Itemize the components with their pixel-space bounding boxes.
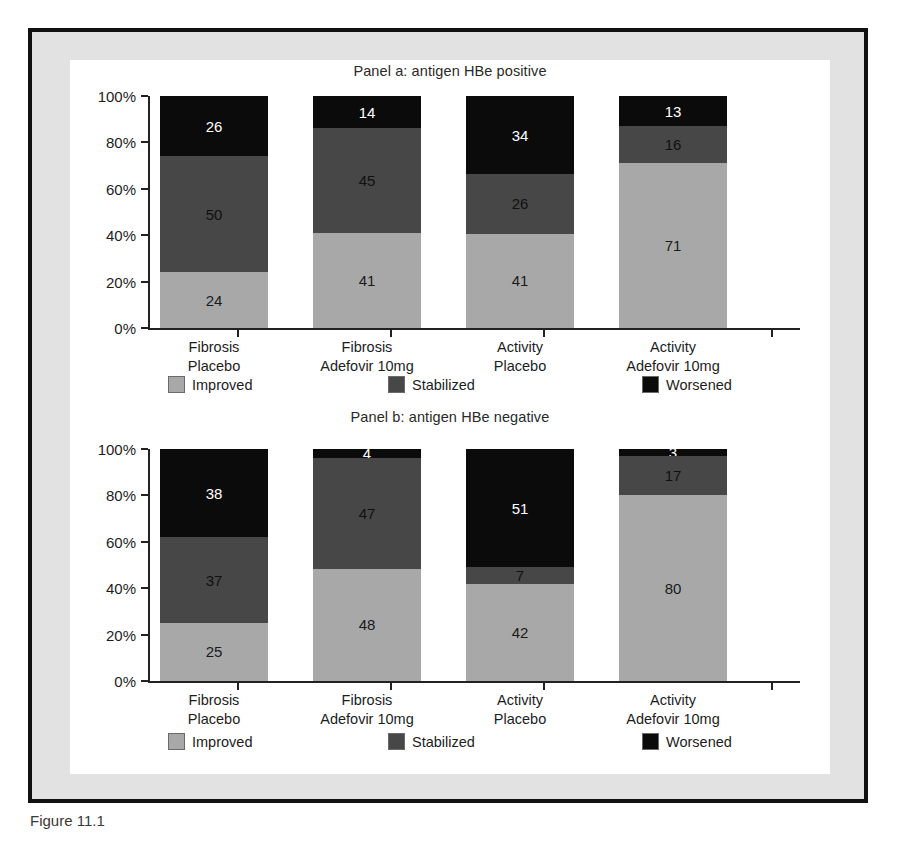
stacked-bar[interactable]: 44748 xyxy=(313,449,421,681)
bar-segment-value: 26 xyxy=(206,119,223,134)
bar-segment-value: 51 xyxy=(512,501,529,516)
legend-item-improved: Improved xyxy=(168,376,252,393)
x-axis-tick xyxy=(390,328,392,337)
category-label-line2: Adefovir 10mg xyxy=(583,357,763,376)
bar-segment-value: 16 xyxy=(665,137,682,152)
y-axis-tick xyxy=(141,327,148,329)
bar-segment-improved[interactable]: 24 xyxy=(160,272,268,328)
x-axis-tick xyxy=(237,328,239,337)
y-axis-label: 80% xyxy=(70,134,136,151)
panel-b: Panel b: antigen HBe negative 100%80%60%… xyxy=(70,405,830,774)
stacked-bar[interactable]: 31780 xyxy=(619,449,727,681)
bar-segment-stabilized[interactable]: 37 xyxy=(160,537,268,623)
bar-segment-value: 41 xyxy=(359,273,376,288)
x-axis-tick xyxy=(771,681,773,690)
bar-segment-value: 25 xyxy=(206,644,223,659)
bar-segment-worsened[interactable]: 4 xyxy=(313,449,421,458)
bar-segment-stabilized[interactable]: 7 xyxy=(466,567,574,583)
bar-segment-stabilized[interactable]: 45 xyxy=(313,128,421,232)
bar-segment-worsened[interactable]: 3 xyxy=(619,449,727,456)
bar-segment-improved[interactable]: 41 xyxy=(466,234,574,328)
category-label-line1: Fibrosis xyxy=(189,339,240,355)
bar-segment-worsened[interactable]: 51 xyxy=(466,449,574,567)
bar-segment-stabilized[interactable]: 50 xyxy=(160,156,268,272)
stacked-bar[interactable]: 51742 xyxy=(466,449,574,681)
stacked-bar[interactable]: 131671 xyxy=(619,96,727,328)
y-axis-tick xyxy=(141,634,148,636)
x-axis-tick xyxy=(237,681,239,690)
legend-label-improved: Improved xyxy=(192,377,252,393)
stacked-bar[interactable]: 383725 xyxy=(160,449,268,681)
bar-segment-worsened[interactable]: 38 xyxy=(160,449,268,537)
category-label-line1: Activity xyxy=(650,692,696,708)
bar-segment-value: 41 xyxy=(512,273,529,288)
stacked-bar[interactable]: 144541 xyxy=(313,96,421,328)
y-axis-tick xyxy=(141,541,148,543)
y-axis-label: 60% xyxy=(70,180,136,197)
category-label-line1: Activity xyxy=(650,339,696,355)
legend-label-stabilized: Stabilized xyxy=(412,377,475,393)
bar-segment-improved[interactable]: 71 xyxy=(619,163,727,328)
category-label-line2: Adefovir 10mg xyxy=(583,710,763,729)
category-label-line1: Activity xyxy=(497,339,543,355)
x-axis-tick xyxy=(390,681,392,690)
panel-a: Panel a: antigen HBe positive 100%80%60%… xyxy=(70,60,830,405)
improved-swatch-icon xyxy=(168,376,185,393)
x-axis-line xyxy=(148,681,800,683)
y-axis-tick xyxy=(141,680,148,682)
y-axis-line xyxy=(148,449,150,683)
bar-segment-improved[interactable]: 41 xyxy=(313,233,421,328)
y-axis-line xyxy=(148,96,150,330)
bar-segment-stabilized[interactable]: 47 xyxy=(313,458,421,568)
legend-label-stabilized: Stabilized xyxy=(412,734,475,750)
stacked-bar[interactable]: 265024 xyxy=(160,96,268,328)
legend-item-stabilized: Stabilized xyxy=(388,376,475,393)
figure-caption: Figure 11.1 xyxy=(30,812,430,846)
y-axis-tick xyxy=(141,448,148,450)
x-axis-line xyxy=(148,328,800,330)
stabilized-swatch-icon xyxy=(388,733,405,750)
y-axis-label: 100% xyxy=(70,441,136,458)
bar-segment-stabilized[interactable]: 16 xyxy=(619,126,727,163)
y-axis-label: 0% xyxy=(70,673,136,690)
bar-segment-value: 47 xyxy=(359,506,376,521)
y-axis-label: 40% xyxy=(70,227,136,244)
y-axis-tick xyxy=(141,95,148,97)
stacked-bar[interactable]: 342641 xyxy=(466,96,574,328)
bar-segment-value: 42 xyxy=(512,625,529,640)
stabilized-swatch-icon xyxy=(388,376,405,393)
legend-label-worsened: Worsened xyxy=(666,734,732,750)
bar-segment-worsened[interactable]: 13 xyxy=(619,96,727,126)
bar-segment-improved[interactable]: 80 xyxy=(619,495,727,681)
bar-segment-value: 45 xyxy=(359,173,376,188)
bar-segment-value: 38 xyxy=(206,486,223,501)
bar-segment-value: 24 xyxy=(206,293,223,308)
x-axis-tick xyxy=(771,328,773,337)
bar-segment-value: 48 xyxy=(359,617,376,632)
bar-segment-worsened[interactable]: 14 xyxy=(313,96,421,128)
figure-frame: Panel a: antigen HBe positive 100%80%60%… xyxy=(28,28,868,803)
worsened-swatch-icon xyxy=(642,733,659,750)
category-label-line1: Activity xyxy=(497,692,543,708)
y-axis-label: 40% xyxy=(70,580,136,597)
improved-swatch-icon xyxy=(168,733,185,750)
y-axis-label: 100% xyxy=(70,88,136,105)
y-axis-tick xyxy=(141,587,148,589)
bar-segment-worsened[interactable]: 26 xyxy=(160,96,268,156)
plot-card: Panel a: antigen HBe positive 100%80%60%… xyxy=(70,60,830,774)
bar-segment-improved[interactable]: 25 xyxy=(160,623,268,681)
y-axis-tick xyxy=(141,494,148,496)
bar-segment-value: 50 xyxy=(206,207,223,222)
y-axis-label: 20% xyxy=(70,273,136,290)
bar-segment-improved[interactable]: 48 xyxy=(313,569,421,681)
legend-item-worsened: Worsened xyxy=(642,376,732,393)
bar-segment-stabilized[interactable]: 17 xyxy=(619,456,727,495)
bar-segment-value: 17 xyxy=(665,468,682,483)
bar-segment-improved[interactable]: 42 xyxy=(466,584,574,681)
bar-segment-worsened[interactable]: 34 xyxy=(466,96,574,174)
y-axis-tick xyxy=(141,188,148,190)
panel-b-legend: Improved Stabilized Worsened xyxy=(70,733,830,755)
bar-segment-value: 13 xyxy=(665,104,682,119)
bar-segment-value: 7 xyxy=(516,568,524,583)
bar-segment-stabilized[interactable]: 26 xyxy=(466,174,574,234)
